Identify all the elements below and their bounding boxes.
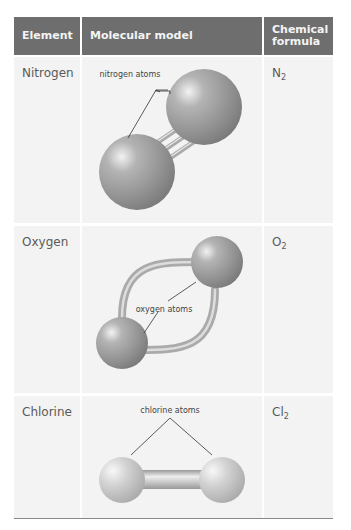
svg-text:chlorine atoms: chlorine atoms [140, 406, 200, 415]
chlorine-atom-right [199, 457, 245, 503]
svg-text:oxygen atoms: oxygen atoms [136, 305, 193, 314]
nitrogen-molecule: nitrogen atoms [99, 69, 242, 210]
nitrogen-atom-upper [166, 69, 242, 145]
svg-text:nitrogen atoms: nitrogen atoms [100, 70, 161, 79]
oxygen-molecule: oxygen atoms [96, 236, 243, 369]
oxygen-atom-upper [191, 236, 243, 288]
molecule-illustrations: nitrogen atoms oxygen atoms chlorine ato… [0, 0, 351, 530]
chlorine-atom-left [99, 457, 145, 503]
chlorine-molecule: chlorine atoms [99, 406, 245, 503]
nitrogen-atom-lower [99, 134, 175, 210]
oxygen-atom-lower [96, 317, 148, 369]
